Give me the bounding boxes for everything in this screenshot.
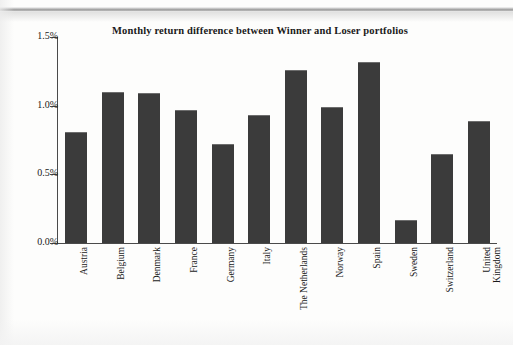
x-axis-label: Sweden <box>410 247 420 342</box>
y-axis-tick: 0.0% <box>0 243 58 244</box>
x-axis-label: Denmark <box>153 247 163 342</box>
bar <box>65 132 87 243</box>
bar <box>321 107 343 243</box>
bar <box>358 62 380 243</box>
x-axis-label: Switzerland <box>446 247 456 342</box>
bar <box>248 115 270 243</box>
chart-title: Monthly return difference between Winner… <box>60 25 460 36</box>
x-axis-label: United Kingdom <box>483 247 503 342</box>
bar <box>431 154 453 243</box>
x-axis-label: Norway <box>336 247 346 342</box>
bar <box>175 110 197 243</box>
bar <box>212 144 234 243</box>
bar <box>285 70 307 243</box>
y-axis-tick-label: 1.5% <box>14 30 58 41</box>
x-axis-labels: AustriaBelgiumDenmarkFranceGermanyItalyT… <box>58 247 497 342</box>
bars-layer <box>58 37 497 243</box>
x-axis-label: Belgium <box>117 247 127 342</box>
y-axis-tick: 0.5% <box>0 174 58 175</box>
bar <box>102 92 124 243</box>
x-axis-line <box>57 243 497 244</box>
x-axis-label: Austria <box>80 247 90 342</box>
y-axis-tick-label: 1.0% <box>14 99 58 110</box>
bar <box>395 220 417 243</box>
y-axis-tick-label: 0.5% <box>14 167 58 178</box>
y-axis-tick-label: 0.0% <box>14 236 58 247</box>
x-axis-label: The Netherlands <box>300 247 310 342</box>
x-axis-label: Spain <box>373 247 383 342</box>
bar <box>138 93 160 243</box>
y-axis-tick: 1.5% <box>0 37 58 38</box>
x-axis-label: France <box>190 247 200 342</box>
bar-chart: Monthly return difference between Winner… <box>0 0 513 345</box>
y-axis-tick: 1.0% <box>0 106 58 107</box>
bar <box>468 121 490 243</box>
x-axis-label: Italy <box>263 247 273 342</box>
x-axis-label: Germany <box>227 247 237 342</box>
